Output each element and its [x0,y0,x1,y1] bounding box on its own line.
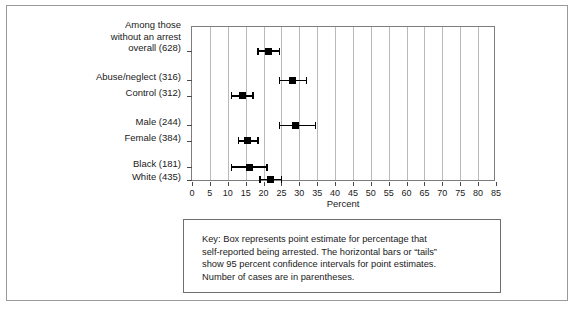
point-estimate-marker [267,176,274,183]
gridline [478,27,479,180]
confidence-interval-bar [260,179,281,181]
row-label: Male (244) [136,116,181,128]
key-text-line: self-reported being arrested. The horizo… [202,246,488,259]
x-axis-tick [442,182,443,186]
confidence-interval-cap [257,137,259,144]
row-label: Abuse/neglect (316) [96,71,181,83]
y-axis-ticks [192,27,494,180]
x-axis-tick [228,182,229,186]
point-estimate-marker [244,137,251,144]
x-axis-tick-labels: 0510152025303540455055606570758085 [192,27,494,180]
x-axis-tick [246,182,247,186]
row-label: Female (384) [125,132,182,144]
confidence-interval-bar [238,140,258,142]
confidence-interval-cap [281,176,283,183]
confidence-interval-bar [280,125,316,127]
confidence-interval-cap [279,122,281,129]
confidence-interval-bar [280,80,307,82]
gridline [371,27,372,180]
x-axis-tick [371,182,372,186]
point-estimate-marker [246,164,253,171]
x-axis-tick [353,182,354,186]
x-axis-tick [317,182,318,186]
y-axis-tick [187,96,192,97]
y-axis-tick [187,167,192,168]
row-label: White (435) [132,171,181,183]
gridline [281,27,282,180]
x-axis-title: Percent [191,198,495,209]
x-axis-tick [389,182,390,186]
gridlines [192,27,494,180]
x-axis-tick [281,182,282,186]
row-label: Among those without an arrest overall (6… [111,19,181,54]
x-axis-tick [192,182,193,186]
gridline [264,27,265,180]
confidence-interval-cap [315,122,317,129]
chart-area: Among those without an arrest overall (6… [7,6,569,211]
confidence-interval-cap [306,77,308,84]
y-axis-tick [187,125,192,126]
gridline [228,27,229,180]
confidence-interval-cap [231,164,233,171]
row-label: Black (181) [133,158,181,170]
x-axis-tick [407,182,408,186]
point-estimate-marker [292,122,299,129]
key-text-line: show 95 percent confidence intervals for… [202,258,488,271]
confidence-interval-bar [231,95,252,97]
y-axis-tick [187,80,192,81]
gridline [424,27,425,180]
figure-frame: Among those without an arrest overall (6… [6,5,568,301]
x-axis-tick [299,182,300,186]
confidence-interval-cap [266,164,268,171]
confidence-interval-cap [279,48,281,55]
point-estimate-marker [265,48,272,55]
gridline [210,27,211,180]
gridline [407,27,408,180]
key-text-line: Number of cases are in parentheses. [202,271,488,284]
confidence-interval-bar [231,166,267,168]
confidence-interval-cap [252,92,254,99]
gridline [389,27,390,180]
x-axis-tick [424,182,425,186]
key-box: Key: Box represents point estimate for p… [183,219,501,293]
confidence-interval-cap [279,77,281,84]
gridline [460,27,461,180]
gridline [246,27,247,180]
row-label: Control (312) [126,87,181,99]
key-text-line: Key: Box represents point estimate for p… [202,233,488,246]
confidence-interval-bar [258,50,279,52]
key-text: Key: Box represents point estimate for p… [202,233,488,283]
point-estimate-marker [289,77,296,84]
gridline [317,27,318,180]
x-axis-tick [210,182,211,186]
y-axis-tick [187,51,192,52]
x-axis-tick [264,182,265,186]
confidence-interval-cap [231,92,233,99]
confidence-interval-cap [238,137,240,144]
gridline [335,27,336,180]
confidence-interval-cap [259,176,261,183]
plot-series [192,27,494,180]
x-axis-tick [460,182,461,186]
gridline [353,27,354,180]
plot-box: 0510152025303540455055606570758085 [191,26,495,181]
x-axis-tick [335,182,336,186]
x-axis-tick [478,182,479,186]
x-axis-ticks [192,27,494,180]
point-estimate-marker [239,92,246,99]
y-axis-tick [187,141,192,142]
x-axis-tick [496,182,497,186]
gridline [442,27,443,180]
gridline [299,27,300,180]
row-label-group: Among those without an arrest overall (6… [7,6,187,211]
confidence-interval-cap [257,48,259,55]
y-axis-tick [187,180,192,181]
